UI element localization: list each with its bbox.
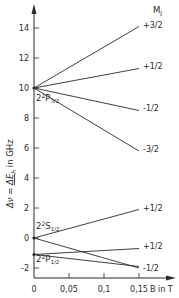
mj-label: +1/2 <box>143 62 163 71</box>
y-tick-label: 2 <box>24 204 29 213</box>
mj-label: +3/2 <box>143 21 163 30</box>
x-ticks: 00,050,10,15 <box>31 273 147 294</box>
x-axis-label: B in T <box>150 285 173 294</box>
x-tick-label: 0,1 <box>98 285 111 294</box>
y-tick-label: 12 <box>19 54 29 63</box>
level-origin-dot <box>32 236 35 239</box>
level-label: 22S1/2 <box>36 220 60 233</box>
y-tick-label: 14 <box>19 24 29 33</box>
level-label: 22P3/2 <box>36 92 59 105</box>
level-line <box>34 27 139 89</box>
y-tick-label: 10 <box>19 84 29 93</box>
level-line <box>34 69 139 89</box>
diagram-canvas: -202468101214 00,050,10,15 22P3/222S1/22… <box>0 0 179 298</box>
mj-labels: +3/2+1/2-1/2-3/2+1/2+1/2-1/2 <box>143 21 163 273</box>
y-axis-label: Δν = ΔEh in GHz <box>5 139 17 209</box>
level-origin-dot <box>32 86 35 89</box>
mj-header: MJ <box>153 5 162 17</box>
x-tick-label: 0,15 <box>130 285 148 294</box>
y-tick-label: 4 <box>24 174 29 183</box>
mj-label: -1/2 <box>143 264 159 273</box>
mj-label: +1/2 <box>143 204 163 213</box>
mj-label: -3/2 <box>143 145 159 154</box>
x-tick-label: 0,05 <box>60 285 78 294</box>
y-tick-label: 6 <box>24 144 29 153</box>
zeeman-diagram: -202468101214 00,050,10,15 22P3/222S1/22… <box>0 0 179 298</box>
y-axis-arrow-icon <box>32 4 37 14</box>
level-label: 22P1/2 <box>36 253 59 266</box>
x-axis-arrow-icon <box>166 276 176 281</box>
y-tick-label: 8 <box>24 114 29 123</box>
x-tick-label: 0 <box>31 285 36 294</box>
level-labels: 22P3/222S1/222P1/2 <box>36 92 60 266</box>
y-tick-label: -2 <box>21 264 29 273</box>
y-tick-label: 0 <box>24 234 29 243</box>
mj-label: +1/2 <box>143 242 163 251</box>
mj-label: -1/2 <box>143 104 159 113</box>
level-lines <box>32 27 139 269</box>
y-ticks: -202468101214 <box>19 24 39 273</box>
